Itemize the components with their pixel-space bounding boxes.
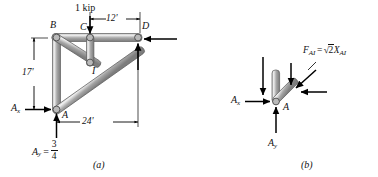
- force-factor-sub-AI: AI: [340, 49, 347, 57]
- reaction-sub-Ay-b: y: [274, 142, 277, 150]
- fraction-numerator: 3: [51, 140, 58, 150]
- joint-label-A-panel-b: A: [283, 102, 289, 112]
- caption-panel-b: (b): [301, 160, 313, 170]
- pin-joint-C: [87, 34, 94, 41]
- force-equals: =: [315, 45, 323, 55]
- dimension-label-12: 12': [106, 14, 118, 24]
- member-AID: [52, 46, 146, 116]
- joint-label-A: A: [62, 110, 68, 120]
- arrow-b-diagonal-FAI: [296, 70, 316, 88]
- joint-label-D: D: [142, 21, 149, 31]
- joint-label-I: I: [92, 66, 95, 76]
- truss-members-panel-a: [51, 32, 146, 115]
- sqrt-symbol-icon: √2: [324, 46, 334, 56]
- dimension-label-17: 17': [22, 68, 34, 78]
- joint-label-B: B: [50, 20, 56, 30]
- reaction-equals-Ay-a: =: [41, 146, 51, 157]
- joint-label-C: C: [80, 22, 87, 32]
- reaction-fraction-Ay-a: 34: [51, 140, 58, 161]
- pin-joint-B: [53, 34, 60, 41]
- reaction-sub-Ax-b: x: [237, 99, 240, 107]
- reaction-label-Ax-panel-a: Ax: [11, 103, 20, 115]
- reaction-sub-Ax-a: x: [17, 107, 20, 115]
- pin-joint-A: [53, 106, 60, 113]
- reaction-label-Ay-panel-b: Ay: [268, 138, 277, 150]
- dimension-label-24: 24': [82, 117, 94, 127]
- member-BA: [53, 34, 61, 113]
- reaction-label-Ax-panel-b: Ax: [231, 95, 240, 107]
- pin-joint-A-detail: [273, 98, 280, 105]
- fraction-denominator: 4: [51, 152, 58, 162]
- caption-panel-a: (a): [93, 160, 105, 170]
- force-label-FAI: FAI=√2XAI: [303, 46, 346, 57]
- reaction-label-Ay-panel-a: Ay=34: [32, 140, 58, 161]
- joint-detail-panel-b: [245, 57, 327, 133]
- leader-line-FAI: [308, 62, 316, 70]
- statics-figure-root: 1 kip B C D I A 17' 12' 24' Ax Ay=34 (a)…: [0, 0, 378, 177]
- load-label-1kip: 1 kip: [75, 3, 95, 13]
- pin-joint-D: [135, 34, 142, 41]
